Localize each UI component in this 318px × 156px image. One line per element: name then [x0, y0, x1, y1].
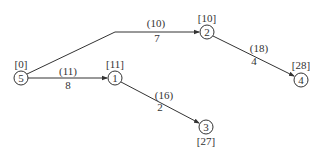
edge-1-3: (16) 2	[121, 82, 199, 123]
node-3: 3 [27]	[197, 120, 215, 147]
node-4-value: [28]	[292, 59, 310, 71]
node-3-label: 3	[203, 121, 209, 133]
node-1: 1 [11]	[106, 58, 124, 85]
node-4: 4 [28]	[292, 59, 310, 87]
network-diagram: (10) 7 (11) 8 (18) 4 (16) 2 5 [0] 1 [11]…	[0, 0, 318, 156]
edge-5-2-top-label: (10)	[147, 17, 166, 30]
node-4-label: 4	[298, 74, 304, 86]
node-2-value: [10]	[198, 12, 216, 24]
node-3-value: [27]	[197, 135, 215, 147]
edge-5-2-bottom-label: 7	[154, 32, 160, 44]
edge-1-3-bottom-label: 2	[157, 101, 163, 113]
node-1-value: [11]	[106, 58, 124, 70]
edge-2-4: (18) 4	[213, 36, 294, 76]
edge-5-1-bottom-label: 8	[65, 79, 71, 91]
node-2-label: 2	[204, 26, 210, 38]
node-2: 2 [10]	[198, 12, 216, 39]
node-5-value: [0]	[15, 58, 28, 70]
edge-5-1-top-label: (11)	[59, 65, 77, 78]
node-5-label: 5	[18, 72, 24, 84]
edge-2-4-top-label: (18)	[250, 42, 269, 55]
edge-5-1: (11) 8	[28, 65, 107, 91]
edge-2-4-bottom-label: 4	[251, 55, 257, 67]
node-5: 5 [0]	[14, 58, 28, 85]
node-1-label: 1	[112, 72, 118, 84]
